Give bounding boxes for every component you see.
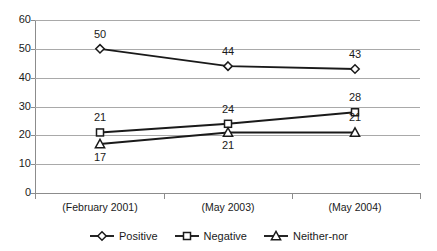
data-point-label: 24	[222, 104, 234, 115]
y-axis-tick-mark	[31, 49, 35, 50]
y-axis-tick: 40	[0, 72, 31, 83]
square-marker-icon	[183, 233, 190, 240]
triangle-marker-icon	[95, 139, 104, 147]
square-marker-icon	[174, 230, 200, 242]
legend-item-positive[interactable]: Positive	[89, 230, 158, 242]
y-axis-tick-label: 40	[3, 72, 31, 83]
y-axis-tick-label: 50	[3, 43, 31, 54]
y-axis-tick-label: 30	[3, 101, 31, 112]
y-axis-tick: 50	[0, 43, 31, 54]
y-axis-tick: 10	[0, 158, 31, 169]
data-point-label: 50	[94, 29, 106, 40]
y-axis-tick: 30	[0, 101, 31, 112]
y-axis-tick-mark	[31, 107, 35, 108]
diamond-marker-icon	[224, 62, 232, 70]
x-axis-tick-label: (May 2004)	[328, 201, 381, 213]
x-axis-tick-label: (February 2001)	[62, 201, 137, 213]
y-axis-tick-label: 10	[3, 158, 31, 169]
x-axis-tick-mark	[35, 194, 36, 199]
x-axis-line	[35, 193, 421, 194]
x-axis-tick-mark	[292, 194, 293, 199]
diamond-marker-icon	[89, 230, 115, 242]
legend-label: Neither-nor	[293, 230, 348, 242]
legend-label: Positive	[119, 230, 158, 242]
data-point-label: 43	[349, 49, 361, 60]
legend-label: Negative	[204, 230, 247, 242]
series-layer	[0, 0, 437, 251]
x-axis-tick-mark	[420, 194, 421, 199]
data-point-label: 28	[349, 92, 361, 103]
legend-item-neither-nor[interactable]: Neither-nor	[263, 230, 348, 242]
data-point-label: 21	[94, 112, 106, 123]
data-point-label: 44	[222, 46, 234, 57]
gridline	[35, 135, 420, 136]
y-axis-tick-label: 0	[3, 187, 31, 198]
square-marker-icon	[225, 120, 232, 127]
diamond-marker-icon	[98, 232, 106, 240]
data-point-label: 17	[94, 152, 106, 163]
legend-item-negative[interactable]: Negative	[174, 230, 247, 242]
y-axis-tick-label: 20	[3, 129, 31, 140]
y-axis-tick-mark	[31, 78, 35, 79]
x-axis-tick-label: (May 2003)	[201, 201, 254, 213]
gridline	[35, 20, 420, 21]
diamond-marker-icon	[351, 65, 359, 73]
gridline	[35, 164, 420, 165]
data-point-label: 21	[222, 140, 234, 151]
y-axis-tick: 60	[0, 14, 31, 25]
chart-legend: PositiveNegativeNeither-nor	[0, 230, 437, 242]
y-axis-tick-label: 60	[3, 14, 31, 25]
y-axis-tick-mark	[31, 20, 35, 21]
y-axis-tick-mark	[31, 164, 35, 165]
gridline	[35, 78, 420, 79]
triangle-marker-icon	[263, 230, 289, 242]
series-line-negative	[100, 112, 355, 132]
line-chart: 6050403020100 (February 2001)(May 2003)(…	[0, 0, 437, 251]
y-axis-tick-mark	[31, 135, 35, 136]
y-axis-tick: 20	[0, 129, 31, 140]
x-axis-tick-mark	[164, 194, 165, 199]
y-axis-tick: 0	[0, 187, 31, 198]
data-point-label: 21	[349, 112, 361, 123]
